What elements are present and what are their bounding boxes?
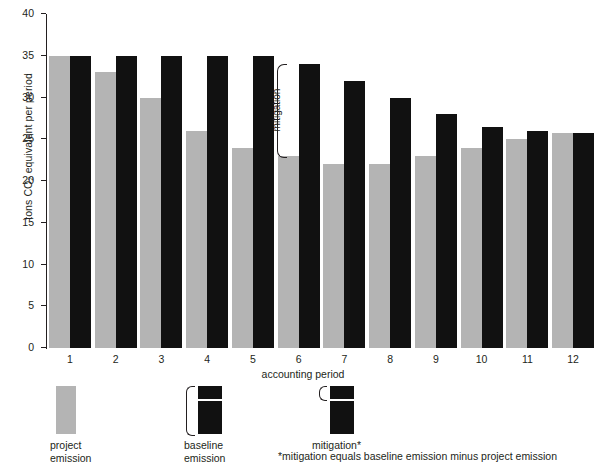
y-tick-40: 40: [41, 13, 46, 14]
bar-baseline-emission-2: [116, 56, 137, 348]
legend-swatch-baseline-top: [198, 386, 222, 399]
bar-project-emission-2: [95, 72, 116, 348]
legend-label-baseline: baseline emission: [184, 439, 264, 465]
bar-project-emission-9: [415, 156, 436, 348]
bar-group-5: 5: [230, 14, 276, 348]
bar-baseline-emission-6: [299, 64, 320, 348]
bar-baseline-emission-5: [253, 56, 274, 348]
bar-group-7: 7: [322, 14, 368, 348]
x-tick-label-8: 8: [367, 353, 413, 365]
legend-swatch-project: [56, 386, 76, 434]
bar-project-emission-10: [461, 148, 482, 348]
bar-baseline-emission-9: [436, 114, 457, 348]
bar-baseline-emission-10: [482, 127, 503, 348]
bar-baseline-emission-7: [344, 81, 365, 348]
bar-group-6: 6: [276, 14, 322, 348]
y-tick-10: 10: [41, 264, 46, 265]
y-axis-title: tons CO2 equivalent per period: [22, 57, 35, 237]
bar-baseline-emission-8: [390, 98, 411, 349]
y-tick-label-40: 40: [22, 7, 34, 19]
x-tick-label-1: 1: [47, 353, 93, 365]
bar-group-11: 11: [505, 14, 551, 348]
legend-label-project: project emission: [50, 439, 120, 465]
legend-swatch-mitigation-top: [330, 386, 354, 399]
bar-project-emission-12: [552, 133, 573, 348]
legend-swatch-mitigation-body: [330, 401, 354, 434]
bar-group-8: 8: [367, 14, 413, 348]
legend-brace-baseline: [186, 386, 195, 436]
bar-project-emission-1: [49, 56, 70, 348]
bar-group-1: 1: [47, 14, 93, 348]
x-tick-label-7: 7: [322, 353, 368, 365]
bar-group-3: 3: [139, 14, 185, 348]
plot-area: 0510152025303540 123456789101112 mitigat…: [46, 14, 596, 348]
x-axis-title: accounting period: [0, 368, 606, 380]
y-tick-0: 0: [41, 347, 46, 348]
x-tick-label-6: 6: [276, 353, 322, 365]
bar-group-9: 9: [413, 14, 459, 348]
x-tick-label-12: 12: [550, 353, 596, 365]
y-tick-label-20: 20: [22, 174, 34, 186]
bar-series-group: 123456789101112: [47, 14, 596, 348]
y-tick-30: 30: [41, 97, 46, 98]
bar-baseline-emission-4: [207, 56, 228, 348]
x-tick-label-2: 2: [93, 353, 139, 365]
bar-project-emission-6: [278, 156, 299, 348]
y-tick-15: 15: [41, 222, 46, 223]
bar-group-2: 2: [93, 14, 139, 348]
y-tick-label-30: 30: [22, 91, 34, 103]
x-tick-label-3: 3: [139, 353, 185, 365]
y-tick-25: 25: [41, 138, 46, 139]
y-tick-label-25: 25: [22, 132, 34, 144]
y-tick-label-0: 0: [28, 341, 34, 353]
bar-project-emission-5: [232, 148, 253, 348]
x-tick-label-9: 9: [413, 353, 459, 365]
bar-project-emission-7: [323, 164, 344, 348]
y-tick-35: 35: [41, 55, 46, 56]
y-tick-20: 20: [41, 180, 46, 181]
bar-project-emission-8: [369, 164, 390, 348]
legend-brace-mitigation: [319, 386, 327, 401]
chart-footnote: *mitigation equals baseline emission min…: [278, 450, 557, 462]
y-tick-label-35: 35: [22, 49, 34, 61]
bar-baseline-emission-12: [573, 133, 594, 348]
bar-baseline-emission-3: [161, 56, 182, 348]
y-tick-label-10: 10: [22, 258, 34, 270]
legend-swatch-baseline-body: [198, 401, 222, 434]
y-tick-label-5: 5: [28, 299, 34, 311]
x-tick-label-4: 4: [184, 353, 230, 365]
bar-group-4: 4: [184, 14, 230, 348]
y-tick-label-15: 15: [22, 216, 34, 228]
y-tick-5: 5: [41, 305, 46, 306]
bar-group-10: 10: [459, 14, 505, 348]
bar-baseline-emission-1: [70, 56, 91, 348]
x-tick-label-10: 10: [459, 353, 505, 365]
bar-project-emission-11: [506, 139, 527, 348]
bar-project-emission-4: [186, 131, 207, 348]
bar-project-emission-3: [140, 98, 161, 349]
x-tick-label-5: 5: [230, 353, 276, 365]
bar-baseline-emission-11: [527, 131, 548, 348]
x-tick-label-11: 11: [505, 353, 551, 365]
bar-group-12: 12: [550, 14, 596, 348]
chart-container: tons CO2 equivalent per period 051015202…: [0, 0, 606, 473]
